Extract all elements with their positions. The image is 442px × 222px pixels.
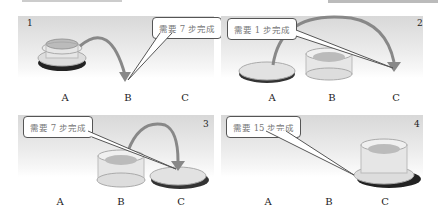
peg-label-c: C <box>378 196 392 207</box>
peg-label-c: C <box>178 92 192 103</box>
peg-label-c: C <box>174 196 188 207</box>
peg-label-b: B <box>322 196 336 207</box>
peg-label-b: B <box>325 92 339 103</box>
panel-3: 3 需要 7 步完成 A B C <box>0 111 221 222</box>
peg-label-b: B <box>121 92 135 103</box>
panel-2: 2 需要 1 步完成 A B C <box>221 0 442 111</box>
panel-4: 4 需要 15 步完成 A B C <box>221 111 442 222</box>
peg-label-a: A <box>261 196 275 207</box>
peg-label-a: A <box>58 92 72 103</box>
peg-label-a: A <box>265 92 279 103</box>
peg-label-b: B <box>114 196 128 207</box>
peg-label-c: C <box>389 92 403 103</box>
panel-1: 1 需要 7 步完成 A B C <box>0 0 221 111</box>
peg-label-a: A <box>53 196 67 207</box>
